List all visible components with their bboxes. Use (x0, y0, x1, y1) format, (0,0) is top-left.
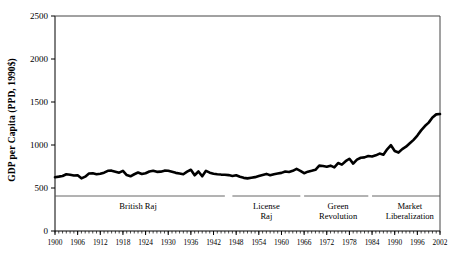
era-label: Raj (260, 211, 272, 221)
y-tick-label: 0 (44, 226, 49, 236)
x-tick-label: 1900 (48, 238, 63, 247)
plot-frame (55, 16, 440, 231)
era-label: Revolution (319, 211, 358, 221)
x-tick-label: 1942 (206, 238, 221, 247)
x-tick-label: 1990 (387, 238, 402, 247)
x-tick-label: 1954 (251, 238, 266, 247)
era-label: License (253, 201, 280, 211)
y-tick-label: 2500 (30, 11, 49, 21)
x-tick-label: 1972 (319, 238, 334, 247)
y-tick-label: 500 (35, 183, 49, 193)
x-tick-label: 1936 (183, 238, 198, 247)
x-tick-label: 1966 (297, 238, 312, 247)
x-tick-label: 1918 (116, 238, 131, 247)
gdp-series-line (55, 114, 440, 178)
era-annotation-group: British RajLicenseRajGreenRevolutionMark… (55, 196, 440, 221)
y-tick-label: 2000 (30, 54, 49, 64)
y-tick-label: 1000 (30, 140, 49, 150)
era-label: Market (397, 201, 422, 211)
x-tick-label: 1984 (365, 238, 380, 247)
era-label: British Raj (119, 201, 156, 211)
y-tick-label: 1500 (30, 97, 49, 107)
x-tick-label: 1948 (229, 238, 244, 247)
x-tick-label: 1930 (161, 238, 176, 247)
x-tick-label: 1906 (70, 238, 85, 247)
chart-figure: GDP per Capita (PPD, 1990$) 050010001500… (0, 0, 455, 263)
y-tick-group: 05001000150020002500 (30, 11, 55, 236)
gdp-per-capita-line-chart: 05001000150020002500 1900190619121918192… (0, 0, 455, 263)
x-tick-label: 1960 (274, 238, 289, 247)
era-label: Green (328, 201, 350, 211)
era-label: Liberalization (386, 211, 435, 221)
x-tick-label: 1924 (138, 238, 153, 247)
y-axis-group: 05001000150020002500 (30, 11, 55, 236)
x-axis-group: 1900190619121918192419301936194219481954… (48, 231, 448, 247)
x-tick-label: 2002 (433, 238, 448, 247)
x-tick-label: 1978 (342, 238, 357, 247)
x-tick-label: 1912 (93, 238, 108, 247)
x-tick-label: 1996 (410, 238, 425, 247)
